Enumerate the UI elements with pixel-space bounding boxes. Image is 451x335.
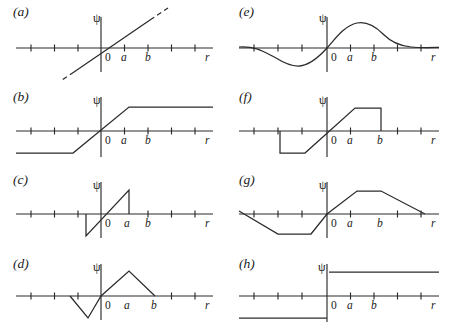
panel-f-r-label: r: [431, 134, 436, 146]
panel-a-origin-label: 0: [105, 51, 111, 63]
panel-h-r-label: r: [431, 299, 436, 311]
panel-d-axes: [16, 264, 213, 320]
panel-f-b-label: b: [377, 134, 383, 146]
panel-h-origin-label: 0: [331, 299, 337, 311]
panel-c-origin-label: 0: [105, 217, 111, 229]
panel-a-r-label: r: [205, 51, 210, 63]
panel-d-origin-label: 0: [105, 299, 111, 311]
panel-g-label: (g): [239, 173, 255, 187]
panel-b-curve: [16, 107, 213, 153]
panel-f-axes: [239, 97, 439, 157]
panel-f-origin-label: 0: [331, 134, 337, 146]
panel-e-psi-label: ψ: [319, 11, 327, 25]
panel-d-b-label: b: [151, 299, 157, 311]
panel-d-label: (d): [13, 257, 29, 271]
panel-e-label: (e): [239, 5, 254, 19]
panel-a-a-label: a: [121, 51, 127, 63]
panel-d-a-label: a: [124, 299, 130, 311]
panel-c-label: (c): [13, 173, 28, 187]
panel-d-curve: [70, 271, 155, 318]
panel-g-axes: [239, 182, 439, 238]
panel-c: (c) ψ 0 a b r: [0, 168, 225, 251]
panel-e-b-label: b: [371, 51, 377, 63]
panel-c-a-label: a: [124, 217, 130, 229]
panel-c-curve: [86, 190, 129, 236]
panel-c-axes: [16, 182, 213, 238]
panel-g-a-label: a: [347, 217, 353, 229]
panel-c-psi-label: ψ: [93, 178, 101, 192]
panel-c-r-label: r: [205, 217, 210, 229]
panel-e-r-label: r: [431, 51, 436, 63]
panel-g-psi-label: ψ: [319, 178, 327, 192]
panel-g-r-label: r: [431, 217, 436, 229]
panel-b: (b) ψ 0 a b r: [0, 85, 225, 168]
panel-g-origin-label: 0: [331, 217, 337, 229]
wavefunction-panel-figure: (a) ψ 0 a b r: [0, 0, 451, 335]
panel-b-origin-label: 0: [105, 134, 111, 146]
panel-h: (h) ψ 0 a b r: [226, 252, 451, 335]
panel-c-b-label: b: [145, 217, 151, 229]
panel-e-a-label: a: [347, 51, 353, 63]
panel-b-psi-label: ψ: [93, 93, 101, 107]
panel-h-psi-label: ψ: [318, 260, 326, 274]
panel-b-r-label: r: [205, 134, 210, 146]
panel-h-b-label: b: [371, 299, 377, 311]
panel-h-label: (h): [239, 257, 255, 271]
panel-a-label: (a): [13, 5, 29, 19]
panel-d: (d) ψ 0 a b r: [0, 252, 225, 335]
panel-e-curve: [239, 23, 439, 66]
panel-a-b-label: b: [145, 51, 151, 63]
panel-g: (g) ψ 0 a b r: [226, 168, 451, 251]
panel-h-axes: [239, 264, 439, 322]
panel-b-b-label: b: [145, 134, 151, 146]
panel-f-label: (f): [239, 90, 252, 104]
panel-g-b-label: b: [377, 217, 383, 229]
panel-d-r-label: r: [205, 299, 210, 311]
panel-a: (a) ψ 0 a b r: [0, 0, 225, 83]
panel-e-origin-label: 0: [331, 51, 337, 63]
panel-b-a-label: a: [121, 134, 127, 146]
panel-a-curve: [62, 8, 168, 80]
panel-e-axes: [239, 17, 439, 72]
panel-b-label: (b): [13, 90, 29, 104]
panel-h-a-label: a: [347, 299, 353, 311]
panel-e: (e) ψ 0 a b r: [226, 0, 451, 83]
panel-d-psi-label: ψ: [93, 260, 101, 274]
panel-b-axes: [16, 97, 213, 157]
panel-a-psi-label: ψ: [93, 11, 101, 25]
panel-f: (f) ψ 0 a b r: [226, 85, 451, 168]
panel-h-curve: [239, 272, 439, 318]
panel-f-psi-label: ψ: [319, 93, 327, 107]
panel-f-a-label: a: [347, 134, 353, 146]
